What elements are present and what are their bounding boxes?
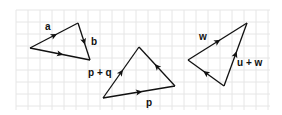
triangle-pq: p + qp <box>88 47 175 108</box>
vector-label: p + q <box>88 67 112 78</box>
triangle-uw: wu + w <box>188 23 263 86</box>
vector-label: u + w <box>237 57 263 68</box>
vector-label: p <box>146 97 152 108</box>
arrowhead-icon <box>213 37 222 46</box>
vector-label: a <box>45 21 51 32</box>
vector-label: b <box>91 36 97 47</box>
arrowhead-icon <box>80 38 88 46</box>
grid-background <box>16 10 270 110</box>
arrowhead-icon <box>50 31 59 39</box>
vector-label: w <box>198 31 207 42</box>
vector-triangles-diagram: abp + qpwu + w <box>0 0 282 115</box>
